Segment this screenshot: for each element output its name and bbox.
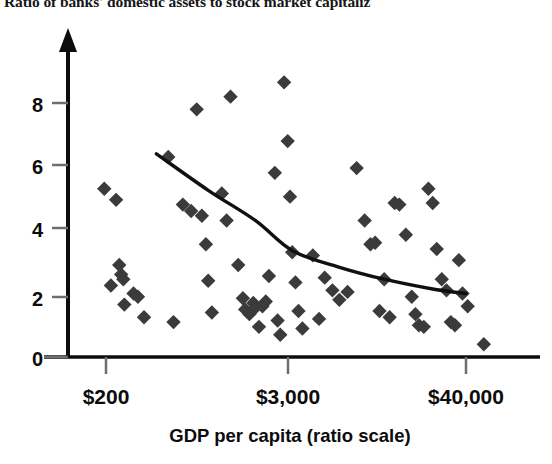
y-tick-label: 8: [32, 94, 43, 116]
data-point: [460, 299, 474, 313]
data-point: [295, 321, 309, 335]
data-point: [349, 161, 363, 175]
data-point-group: [97, 75, 491, 351]
data-point: [201, 274, 215, 288]
data-point: [280, 134, 294, 148]
data-point: [277, 75, 291, 89]
data-point: [288, 275, 302, 289]
data-point: [312, 312, 326, 326]
data-point: [357, 213, 371, 227]
x-tick-label: $3,000: [256, 385, 320, 408]
scatter-plot: 8 6 4 2 0 $200 $3,000 $40,000 GDP per ca…: [0, 0, 552, 464]
data-point: [283, 189, 297, 203]
data-point: [252, 320, 266, 334]
data-point: [477, 337, 491, 351]
data-point: [117, 297, 131, 311]
data-point: [199, 237, 213, 251]
y-axis: [59, 28, 77, 357]
y-tick-label: 2: [32, 288, 43, 310]
x-axis-title: GDP per capita (ratio scale): [169, 425, 410, 446]
data-point: [104, 278, 118, 292]
trend-line: [156, 154, 466, 294]
chart-figure: Ratio of banks' domestic assets to stock…: [0, 0, 552, 464]
data-point: [408, 307, 422, 321]
y-axis-arrowhead: [59, 28, 77, 52]
y-tick-group: 8 6 4 2 0: [32, 94, 68, 370]
data-point: [219, 213, 233, 227]
x-tick-group: $200 $3,000 $40,000: [83, 357, 504, 408]
data-point: [223, 89, 237, 103]
y-tick-label: 6: [32, 156, 43, 178]
data-point: [231, 258, 245, 272]
x-tick-label: $200: [83, 385, 130, 408]
y-tick-label: 0: [32, 348, 43, 370]
data-point: [430, 242, 444, 256]
data-point: [452, 253, 466, 267]
y-tick-label: 4: [32, 219, 44, 241]
data-point: [109, 193, 123, 207]
data-point: [273, 328, 287, 342]
data-point: [205, 305, 219, 319]
data-point: [166, 315, 180, 329]
data-point: [268, 166, 282, 180]
data-point: [425, 196, 439, 210]
data-point: [190, 102, 204, 116]
data-point: [421, 182, 435, 196]
x-tick-label: $40,000: [428, 385, 504, 408]
data-point: [262, 269, 276, 283]
data-point: [270, 313, 284, 327]
data-point: [291, 304, 305, 318]
data-point: [137, 310, 151, 324]
data-point: [97, 182, 111, 196]
data-point: [399, 228, 413, 242]
data-point: [318, 270, 332, 284]
data-point: [405, 289, 419, 303]
